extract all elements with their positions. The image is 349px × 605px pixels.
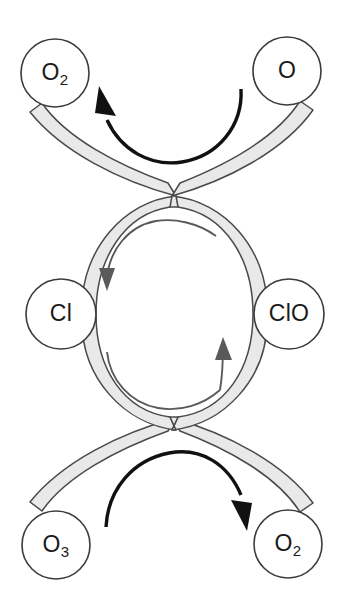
node-o-top-right[interactable]: O [253,37,321,105]
node-cl-middle-left-label: Cl [50,300,72,326]
ribbon-crossover-top [170,196,178,207]
ribbon-arm-bottom-right [172,418,313,512]
cycle-diagram-canvas: O2 O Cl ClO O3 [0,0,349,605]
bottom-reaction-arrow [106,452,252,531]
bottom-reaction-arrow-arc [106,452,241,527]
node-clo-middle-right-label: ClO [269,300,310,326]
node-o-top-right-label: O [278,57,296,83]
node-cl-middle-left[interactable]: Cl [26,279,96,349]
top-reaction-arrowhead [95,86,116,116]
node-o2-top-left[interactable]: O2 [21,39,89,107]
node-o2-bottom-right[interactable]: O2 [254,510,322,578]
top-reaction-arrow-arc [107,89,241,163]
ribbon-arm-top-left [30,103,176,196]
ribbon-arm-bottom-left [30,418,176,511]
ribbon-arm-top-right [172,101,313,196]
inner-cycle-arrow-left-head [99,268,115,291]
node-clo-middle-right[interactable]: ClO [254,279,324,349]
bottom-reaction-arrowhead [231,500,252,531]
node-o3-bottom-left[interactable]: O3 [22,511,90,579]
cycle-diagram-root: O2 O Cl ClO O3 [0,0,349,605]
ribbon-ring-right [172,196,267,430]
top-reaction-arrow [95,86,241,163]
